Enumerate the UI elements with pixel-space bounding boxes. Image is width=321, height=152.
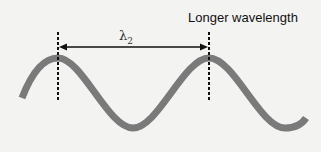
longer-wavelength-label: Longer wavelength [188, 10, 298, 25]
lambda-subscript: 2 [127, 36, 133, 46]
wavelength-symbol-label: λ2 [119, 28, 133, 46]
arrowhead-left-icon [59, 44, 67, 51]
lambda-symbol: λ [119, 28, 127, 43]
sine-wave [22, 58, 306, 128]
arrowhead-right-icon [200, 44, 208, 51]
